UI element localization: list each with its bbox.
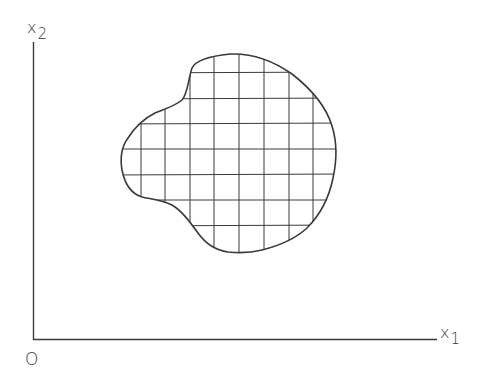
x2-axis-label: x2 bbox=[27, 18, 46, 37]
x1-axis-label: x1 bbox=[440, 323, 459, 342]
x2-label-main: x bbox=[27, 18, 36, 37]
region-boundary bbox=[121, 54, 336, 253]
diagram-canvas bbox=[0, 0, 478, 373]
region-grid bbox=[110, 40, 350, 270]
x1-label-main: x bbox=[440, 323, 449, 342]
x2-label-sub: 2 bbox=[37, 25, 47, 43]
origin-label: O bbox=[25, 349, 38, 369]
x1-label-sub: 1 bbox=[450, 330, 460, 348]
